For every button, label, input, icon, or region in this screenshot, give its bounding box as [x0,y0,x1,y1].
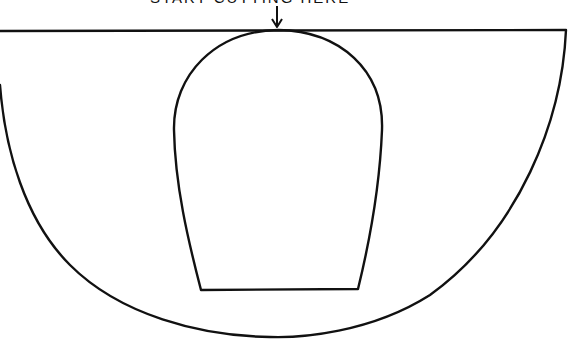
start-arrow-icon [272,6,282,27]
pattern-drawing [0,0,572,339]
pattern-diagram: START CUTTING HERE [0,0,572,339]
outer-half-circle [0,30,566,337]
inner-dome-cutout [174,30,382,290]
